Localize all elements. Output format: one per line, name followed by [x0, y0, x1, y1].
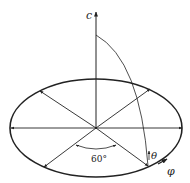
- origin-point: [95, 127, 97, 129]
- c-axis-label: c: [86, 9, 92, 22]
- theta-label: θ: [151, 150, 157, 161]
- diagram-canvas: c 60° θ φ: [0, 0, 190, 183]
- radial-arrow-upper-left: [40, 91, 96, 128]
- radial-arrow-upper-right: [96, 89, 150, 128]
- sixty-degree-arc: [76, 145, 116, 149]
- radial-arrow-lower-left: [44, 128, 96, 167]
- theta-meridian-arc: [96, 35, 148, 166]
- sixty-degree-label: 60°: [91, 154, 107, 164]
- phi-label: φ: [167, 165, 175, 178]
